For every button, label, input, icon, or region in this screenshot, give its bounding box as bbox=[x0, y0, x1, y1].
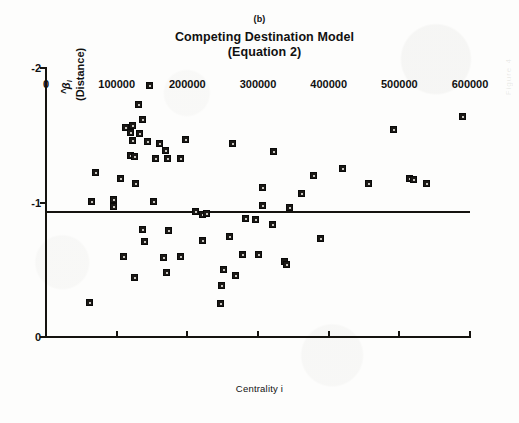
scatter-point bbox=[160, 254, 167, 261]
scatter-point bbox=[88, 198, 95, 205]
scatter-point bbox=[199, 237, 206, 244]
scatter-point bbox=[144, 138, 151, 145]
scatter-point bbox=[162, 147, 169, 154]
scatter-point bbox=[365, 180, 372, 187]
x-tick-5 bbox=[398, 331, 400, 338]
scatter-point bbox=[259, 184, 266, 191]
chart-title-line1: Competing Destination Model bbox=[175, 30, 354, 44]
x-tick-2 bbox=[186, 331, 188, 338]
y-tick-1 bbox=[40, 202, 47, 204]
scatter-point bbox=[135, 101, 142, 108]
x-tick-label-4: 400000 bbox=[310, 78, 347, 90]
scatter-point bbox=[298, 190, 305, 197]
x-tick-label-1: 100000 bbox=[98, 78, 135, 90]
scatter-point bbox=[218, 282, 225, 289]
scatter-point bbox=[203, 210, 210, 217]
scatter-point bbox=[132, 180, 139, 187]
scatter-point bbox=[242, 215, 249, 222]
scatter-point bbox=[120, 253, 127, 260]
scatter-point bbox=[410, 176, 417, 183]
plot-area: -2-10 0100000200000300000400000500000600… bbox=[46, 68, 470, 337]
scatter-point bbox=[423, 180, 430, 187]
x-tick-3 bbox=[257, 331, 259, 338]
panel-label: (b) bbox=[0, 14, 519, 24]
scatter-point bbox=[131, 153, 138, 160]
figure-canvas: Figure 4 (b) Competing Destination Model… bbox=[0, 0, 519, 423]
scatter-point bbox=[339, 165, 346, 172]
y-tick-label-1: -1 bbox=[31, 197, 41, 209]
scatter-point bbox=[229, 140, 236, 147]
scatter-point bbox=[127, 129, 134, 136]
scatter-point bbox=[270, 148, 277, 155]
scatter-point bbox=[226, 233, 233, 240]
scatter-point bbox=[139, 116, 146, 123]
scatter-point bbox=[220, 266, 227, 273]
scatter-point bbox=[141, 238, 148, 245]
scatter-point bbox=[255, 251, 262, 258]
x-tick-label-0: 0 bbox=[43, 78, 49, 90]
scatter-point bbox=[310, 172, 317, 179]
scatter-point bbox=[177, 253, 184, 260]
scatter-point bbox=[152, 155, 159, 162]
scatter-point bbox=[117, 175, 124, 182]
scatter-point bbox=[182, 136, 189, 143]
x-tick-1 bbox=[116, 331, 118, 338]
scatter-point bbox=[259, 202, 266, 209]
scatter-point bbox=[232, 272, 239, 279]
scatter-point bbox=[139, 226, 146, 233]
scatter-point bbox=[177, 155, 184, 162]
scatter-point bbox=[252, 216, 259, 223]
scatter-point bbox=[86, 299, 93, 306]
scatter-point bbox=[150, 198, 157, 205]
scatter-point bbox=[459, 113, 466, 120]
scatter-point bbox=[192, 208, 199, 215]
scatter-point bbox=[136, 130, 143, 137]
scatter-point bbox=[129, 137, 136, 144]
scatter-point bbox=[269, 221, 276, 228]
x-tick-0 bbox=[45, 331, 47, 338]
scatter-point bbox=[239, 251, 246, 258]
x-tick-label-6: 600000 bbox=[452, 78, 489, 90]
y-tick-0 bbox=[40, 67, 47, 69]
x-tick-4 bbox=[328, 331, 330, 338]
scatter-point bbox=[217, 300, 224, 307]
scatter-point bbox=[164, 155, 171, 162]
scatter-point bbox=[165, 227, 172, 234]
x-tick-label-2: 200000 bbox=[169, 78, 206, 90]
x-tick-6 bbox=[469, 331, 471, 338]
x-tick-label-5: 500000 bbox=[381, 78, 418, 90]
scatter-point bbox=[146, 82, 153, 89]
scatter-point bbox=[283, 261, 290, 268]
scatter-point bbox=[286, 204, 293, 211]
y-tick-label-2: 0 bbox=[35, 331, 41, 343]
y-axis-title: ^βi (Distance) bbox=[44, 33, 124, 53]
scatter-point bbox=[110, 203, 117, 210]
scatter-point bbox=[317, 235, 324, 242]
scatter-point bbox=[131, 274, 138, 281]
scatter-point bbox=[390, 126, 397, 133]
x-tick-label-3: 300000 bbox=[240, 78, 277, 90]
reference-line bbox=[46, 211, 470, 213]
marginalia-ghost-text: Figure 4 bbox=[504, 58, 513, 95]
scatter-point bbox=[92, 169, 99, 176]
x-axis-title: Centrality i bbox=[0, 383, 519, 394]
scatter-point bbox=[163, 269, 170, 276]
y-tick-label-0: -2 bbox=[31, 62, 41, 74]
